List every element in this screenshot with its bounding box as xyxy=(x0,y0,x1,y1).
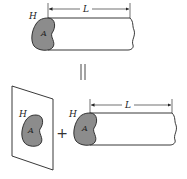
face-label: H xyxy=(28,11,37,21)
diagram-canvas: L H A H A + L H A xyxy=(0,0,187,179)
plane-section: H A xyxy=(12,86,53,170)
face-label: H xyxy=(18,109,27,119)
prism-body xyxy=(90,113,176,145)
top-prism: L H A xyxy=(28,3,134,50)
area-label: A xyxy=(27,126,34,135)
length-label: L xyxy=(124,100,131,110)
area-label: A xyxy=(40,29,47,38)
prism-body xyxy=(48,18,134,50)
area-label: A xyxy=(81,124,88,133)
face-label: H xyxy=(68,109,77,119)
plus-symbol: + xyxy=(56,125,68,141)
equivalence-symbol xyxy=(81,64,85,80)
bottom-prism: L H A xyxy=(68,99,176,145)
length-label: L xyxy=(82,4,89,14)
